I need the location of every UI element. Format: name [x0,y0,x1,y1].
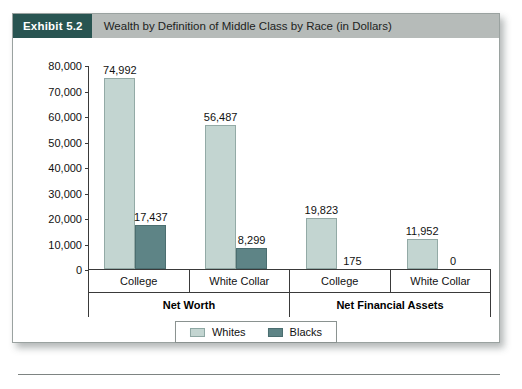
exhibit-panel: Exhibit 5.2 Wealth by Definition of Midd… [12,13,500,343]
bar-whites-3 [306,218,337,269]
x-axis-group-label: Net Worth [89,293,290,317]
y-axis-tick-label: 80,000 [48,61,89,72]
y-axis-tick-label: 30,000 [48,188,89,199]
chart-legend: WhitesBlacks [175,321,337,343]
y-axis-tick-label: 70,000 [48,86,89,97]
bar-blacks-1 [135,225,166,269]
bar-value-label: 175 [343,256,361,267]
x-axis-group-row: Net WorthNet Financial Assets [89,293,490,317]
bar-value-label: 17,437 [134,212,168,223]
y-axis-tick-mark [85,219,89,220]
y-axis-tick-mark [85,245,89,246]
legend-item-blacks[interactable]: Blacks [268,326,322,338]
bar-whites-1 [104,78,135,269]
y-axis-tick-mark [85,66,89,67]
y-axis-tick-mark [85,92,89,93]
x-axis-category-label: College [290,270,391,292]
x-axis-category-label: College [89,270,190,292]
y-axis-tick-label: 60,000 [48,112,89,123]
y-axis-tick-mark [85,143,89,144]
x-axis-category-row: CollegeWhite CollarCollegeWhite Collar [89,270,490,293]
x-axis-category-label: White Collar [190,270,291,292]
legend-item-whites[interactable]: Whites [190,326,246,338]
bar-value-label: 19,823 [305,205,339,216]
bar-value-label: 56,487 [204,112,238,123]
y-axis-tick-label: 40,000 [48,163,89,174]
exhibit-title: Wealth by Definition of Middle Class by … [92,14,499,38]
exhibit-header: Exhibit 5.2 Wealth by Definition of Midd… [13,14,499,38]
exhibit-number-tag: Exhibit 5.2 [13,14,92,38]
y-axis-tick-mark [85,168,89,169]
bar-value-label: 11,952 [406,226,439,237]
x-axis-category-label: White Collar [391,270,491,292]
bar-whites-4 [407,239,438,269]
y-axis-tick-label: 20,000 [48,214,89,225]
plot-area: 80,00070,00060,00050,00040,00030,00020,0… [88,66,491,270]
chart-body: 80,00070,00060,00050,00040,00030,00020,0… [13,38,499,342]
y-axis-tick-label: 10,000 [48,239,89,250]
y-axis-tick-label: 50,000 [48,137,89,148]
legend-label: Whites [212,326,246,338]
y-axis-tick-mark [85,194,89,195]
x-axis-group-label: Net Financial Assets [290,293,490,317]
legend-label: Blacks [290,326,322,338]
y-axis-tick-mark [85,117,89,118]
bar-blacks-2 [236,248,267,269]
page-divider-rule [18,374,500,375]
legend-swatch-icon [190,328,205,337]
legend-swatch-icon [268,328,283,337]
bar-whites-2 [205,125,236,269]
bar-value-label: 8,299 [238,235,266,246]
bar-value-label: 74,992 [103,65,137,76]
x-axis-labels: CollegeWhite CollarCollegeWhite Collar N… [88,270,491,317]
bar-value-label: 0 [450,256,456,267]
